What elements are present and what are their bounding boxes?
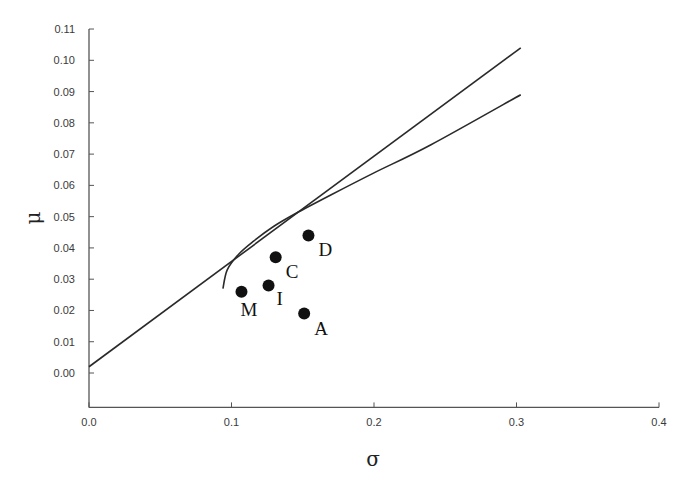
data-point-label-d: D [318, 239, 332, 260]
y-axis: 0.000.010.020.030.040.050.060.070.080.09… [54, 23, 94, 407]
y-tick-label: 0.01 [54, 336, 75, 348]
y-axis-label: μ [21, 212, 45, 225]
efficient-frontier-curve [223, 95, 521, 289]
y-tick-label: 0.09 [54, 86, 75, 98]
plot-area: MICDA [89, 48, 521, 367]
y-tick-label: 0.00 [54, 367, 75, 379]
y-tick-label: 0.11 [54, 23, 75, 35]
data-point-d [302, 229, 314, 241]
data-point-label-c: C [286, 261, 299, 282]
y-tick-label: 0.10 [54, 54, 75, 66]
data-point-label-a: A [314, 318, 328, 339]
y-tick-label: 0.02 [54, 304, 75, 316]
data-point-a [298, 308, 310, 320]
y-tick-label: 0.05 [54, 211, 75, 223]
data-point-i [263, 279, 275, 291]
x-axis: 0.00.10.20.30.4 [81, 402, 666, 428]
data-point-label-i: I [277, 288, 283, 309]
y-tick-label: 0.06 [54, 179, 75, 191]
x-axis-label: σ [366, 447, 380, 471]
x-tick-label: 0.0 [81, 416, 96, 428]
data-point-label-m: M [240, 299, 257, 320]
y-tick-label: 0.07 [54, 148, 75, 160]
x-tick-label: 0.2 [366, 416, 381, 428]
x-tick-label: 0.3 [509, 416, 524, 428]
data-point-m [235, 286, 247, 298]
x-tick-label: 0.4 [651, 416, 666, 428]
data-point-c [270, 251, 282, 263]
x-tick-label: 0.1 [224, 416, 239, 428]
y-tick-label: 0.04 [54, 242, 75, 254]
y-tick-label: 0.08 [54, 117, 75, 129]
chart: 0.000.010.020.030.040.050.060.070.080.09… [0, 0, 698, 487]
y-tick-label: 0.03 [54, 273, 75, 285]
